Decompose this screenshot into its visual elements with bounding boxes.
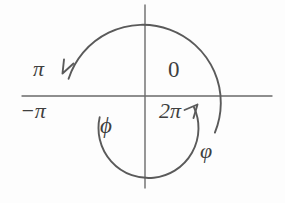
angle-branch-figure: π −π 0 2π ϕ φ [0,0,285,203]
label-phi-outer: φ [200,140,212,162]
label-negative-pi: −π [20,100,46,122]
inner-arc-arrowhead-icon [185,105,198,119]
label-two-pi: 2π [159,100,181,122]
label-pi: π [33,58,44,80]
label-zero: 0 [168,58,180,81]
inner-arc-phi [98,107,198,178]
label-phi-inner: ϕ [100,114,112,137]
